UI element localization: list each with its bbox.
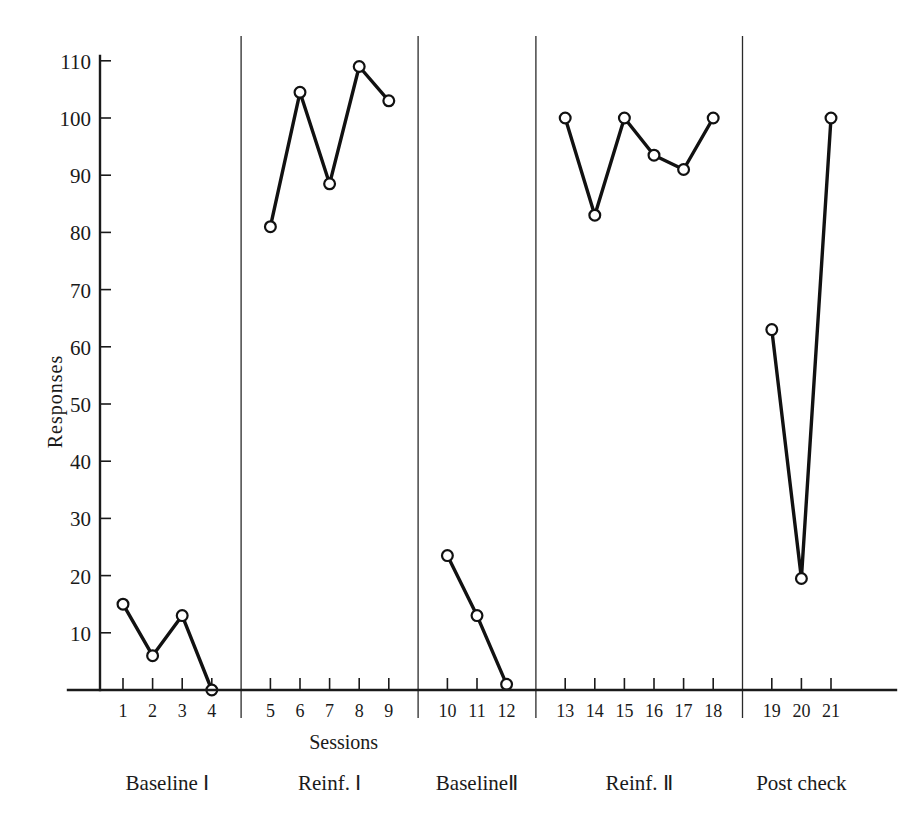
phase-labels: Baseline ⅠReinf. ⅠBaselineⅡReinf. ⅡPost … xyxy=(126,771,847,795)
data-point-marker xyxy=(708,113,719,124)
data-point-marker xyxy=(147,650,158,661)
data-point-marker xyxy=(324,178,335,189)
data-series-lines xyxy=(123,67,831,691)
y-tick-label: 80 xyxy=(70,221,91,245)
x-tick-label: 16 xyxy=(645,701,663,721)
phase-label: BaselineⅡ xyxy=(436,771,518,795)
x-tick-label: 12 xyxy=(498,701,516,721)
data-point-marker xyxy=(118,599,129,610)
data-point-marker xyxy=(472,610,483,621)
series-line-segment xyxy=(772,118,831,579)
x-tick-label: 21 xyxy=(822,701,840,721)
x-axis-title: Sessions xyxy=(309,731,378,753)
data-point-marker xyxy=(649,150,660,161)
data-series-points xyxy=(118,61,837,695)
chart-figure: Responses 102030405060708090100110 12345… xyxy=(0,0,910,814)
series-line-segment xyxy=(270,67,388,227)
data-point-marker xyxy=(589,210,600,221)
y-tick-label: 60 xyxy=(70,336,91,360)
axis-lines xyxy=(68,56,896,690)
y-tick-label: 70 xyxy=(70,279,91,303)
data-point-marker xyxy=(383,95,394,106)
phase-label: Post check xyxy=(756,771,847,795)
phase-label: Baseline Ⅰ xyxy=(126,771,210,795)
data-point-marker xyxy=(501,679,512,690)
data-point-marker xyxy=(354,61,365,72)
phase-label: Reinf. Ⅱ xyxy=(606,771,673,795)
y-tick-label: 30 xyxy=(70,507,91,531)
data-point-marker xyxy=(295,87,306,98)
y-tick-label: 90 xyxy=(70,164,91,188)
data-point-marker xyxy=(177,610,188,621)
x-tick-label: 6 xyxy=(296,701,305,721)
x-tick-label: 19 xyxy=(763,701,781,721)
y-tick-label: 10 xyxy=(70,622,91,646)
data-point-marker xyxy=(442,550,453,561)
x-tick-label: 14 xyxy=(586,701,604,721)
x-tick-label: 2 xyxy=(148,701,157,721)
data-point-marker xyxy=(265,221,276,232)
data-point-marker xyxy=(619,113,630,124)
x-tick-label: 9 xyxy=(384,701,393,721)
x-tick-label: 15 xyxy=(615,701,633,721)
x-axis-ticks xyxy=(123,678,831,690)
x-tick-label: 3 xyxy=(178,701,187,721)
y-tick-label: 40 xyxy=(70,450,91,474)
y-tick-label: 100 xyxy=(60,107,92,131)
phase-label: Reinf. Ⅰ xyxy=(298,771,361,795)
x-tick-label: 17 xyxy=(675,701,693,721)
x-tick-label: 11 xyxy=(468,701,485,721)
x-tick-label: 13 xyxy=(556,701,574,721)
x-tick-label: 5 xyxy=(266,701,275,721)
x-tick-label: 10 xyxy=(438,701,456,721)
x-tick-label: 7 xyxy=(325,701,334,721)
x-tick-label: 1 xyxy=(119,701,128,721)
y-tick-label: 20 xyxy=(70,565,91,589)
series-line-segment xyxy=(123,604,212,690)
data-point-marker xyxy=(678,164,689,175)
data-point-marker xyxy=(766,324,777,335)
x-axis-tick-labels: 123456789101112131415161718192021 xyxy=(119,701,841,721)
y-axis-ticks: 102030405060708090100110 xyxy=(60,50,112,646)
x-tick-label: 8 xyxy=(355,701,364,721)
x-tick-label: 18 xyxy=(704,701,722,721)
chart-plot-area: 102030405060708090100110 123456789101112… xyxy=(0,0,910,814)
data-point-marker xyxy=(796,573,807,584)
data-point-marker xyxy=(826,113,837,124)
y-tick-label: 110 xyxy=(60,50,91,74)
data-point-marker xyxy=(560,113,571,124)
x-tick-label: 20 xyxy=(792,701,810,721)
y-tick-label: 50 xyxy=(70,393,91,417)
series-line-segment xyxy=(565,118,713,215)
x-tick-label: 4 xyxy=(207,701,216,721)
